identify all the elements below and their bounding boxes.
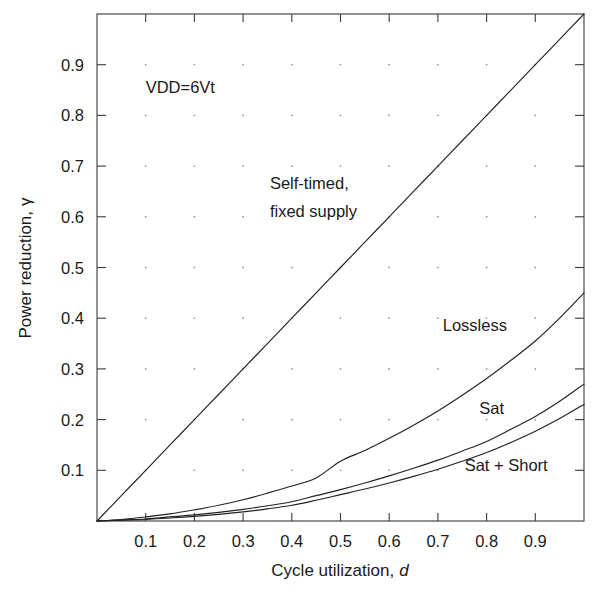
y-axis-tick-labels: 0.10.20.30.40.50.60.70.80.9	[61, 56, 84, 480]
grid-dot	[437, 267, 439, 269]
y-tick-label: 0.1	[61, 461, 84, 479]
x-tick-label: 0.8	[475, 532, 498, 550]
grid-dot	[242, 419, 244, 421]
grid-dot	[145, 165, 147, 167]
x-tick-label: 0.6	[378, 532, 401, 550]
grid-dot	[486, 368, 488, 370]
grid-dot	[194, 115, 196, 117]
grid-dot	[486, 64, 488, 66]
y-tick-label: 0.2	[61, 411, 84, 429]
grid-dot	[535, 267, 537, 269]
grid-dot	[340, 115, 342, 117]
grid-dot	[291, 267, 293, 269]
curve-lossless	[97, 293, 584, 521]
curve-sat	[97, 384, 584, 521]
grid-dot	[388, 419, 390, 421]
grid-dot	[340, 368, 342, 370]
chart-annotations: VDD=6VtSelf-timed,fixed supplyLosslessSa…	[146, 78, 548, 475]
grid-dot	[194, 317, 196, 319]
grid-dot	[388, 64, 390, 66]
x-tick-label: 0.2	[183, 532, 206, 550]
grid-dot	[242, 267, 244, 269]
y-tick-label: 0.5	[61, 259, 84, 277]
grid-dot	[535, 165, 537, 167]
grid-dot	[145, 115, 147, 117]
y-axis-title: Power reduction,γ	[16, 197, 35, 339]
grid-dot	[145, 419, 147, 421]
grid-dot	[242, 165, 244, 167]
lossless-label: Lossless	[443, 316, 507, 334]
grid-dot	[291, 64, 293, 66]
grid-dot	[242, 64, 244, 66]
self-timed-label-line2: fixed supply	[270, 202, 358, 220]
grid-dot	[437, 368, 439, 370]
grid-dot	[535, 368, 537, 370]
y-tick-label: 0.8	[61, 106, 84, 124]
grid-dot	[388, 317, 390, 319]
grid-dot	[486, 419, 488, 421]
grid-dot	[194, 470, 196, 472]
x-tick-label: 0.5	[329, 532, 352, 550]
grid-dot	[242, 317, 244, 319]
grid-dot	[340, 470, 342, 472]
grid-dot	[437, 317, 439, 319]
grid-dot	[486, 216, 488, 218]
y-tick-label: 0.6	[61, 208, 84, 226]
grid-dot	[437, 216, 439, 218]
y-tick-label: 0.3	[61, 360, 84, 378]
grid-dot	[291, 115, 293, 117]
grid-dot	[535, 115, 537, 117]
y-tick-label: 0.7	[61, 157, 84, 175]
grid-dot	[486, 267, 488, 269]
x-tick-label: 0.7	[426, 532, 449, 550]
grid-dot	[437, 115, 439, 117]
grid-dot	[145, 317, 147, 319]
power-reduction-chart: 0.10.20.30.40.50.60.70.80.9 0.10.20.30.4…	[0, 0, 600, 603]
grid-dot	[145, 216, 147, 218]
x-tick-label: 0.9	[524, 532, 547, 550]
grid-dot	[388, 115, 390, 117]
grid-dot	[145, 64, 147, 66]
sat-label: Sat	[479, 399, 504, 417]
grid-dot	[291, 368, 293, 370]
grid-dot	[194, 64, 196, 66]
sat-short-label: Sat + Short	[465, 456, 548, 474]
grid-dot	[291, 470, 293, 472]
x-tick-label: 0.4	[280, 532, 303, 550]
grid-dot	[291, 419, 293, 421]
grid-dot	[194, 216, 196, 218]
grid-dot	[535, 216, 537, 218]
grid-dot	[145, 368, 147, 370]
grid-dot	[388, 267, 390, 269]
y-tick-label: 0.4	[61, 309, 84, 327]
grid-dot	[340, 317, 342, 319]
self-timed-label-line1: Self-timed,	[270, 174, 349, 192]
x-axis-title: Cycle utilization,d	[271, 561, 409, 580]
grid-dot	[437, 419, 439, 421]
grid-dot	[194, 165, 196, 167]
grid-dot	[340, 165, 342, 167]
grid-dot	[388, 165, 390, 167]
x-tick-label: 0.3	[232, 532, 255, 550]
grid-dot	[145, 267, 147, 269]
grid-dot	[340, 64, 342, 66]
grid-dot	[242, 115, 244, 117]
grid-dot	[535, 317, 537, 319]
grid-dot	[486, 165, 488, 167]
grid-dot	[340, 419, 342, 421]
grid-dot	[535, 419, 537, 421]
grid-dot	[437, 64, 439, 66]
grid-dot	[242, 216, 244, 218]
grid-dot	[242, 470, 244, 472]
grid-dot	[194, 267, 196, 269]
grid-dot	[388, 368, 390, 370]
x-axis-tick-labels: 0.10.20.30.40.50.60.70.80.9	[134, 532, 547, 550]
vdd-note: VDD=6Vt	[146, 78, 216, 96]
chart-figure: 0.10.20.30.40.50.60.70.80.9 0.10.20.30.4…	[0, 0, 600, 603]
y-tick-label: 0.9	[61, 56, 84, 74]
x-tick-label: 0.1	[134, 532, 157, 550]
grid-dot	[388, 470, 390, 472]
grid-dot	[194, 368, 196, 370]
grid-dot	[291, 165, 293, 167]
